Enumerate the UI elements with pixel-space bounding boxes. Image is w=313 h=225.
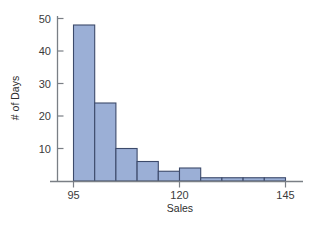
plot-area: 1020304050 95120145 Sales # of Days [0, 0, 313, 225]
histogram-bar [180, 168, 201, 181]
y-axis-title: # of Days [9, 76, 21, 120]
histogram-bar [95, 103, 116, 181]
histogram-bar [137, 162, 158, 182]
x-axis-ticks: 95120145 [67, 182, 294, 202]
y-axis-ticks: 1020304050 [39, 13, 64, 155]
y-axis-tick-label: 50 [39, 13, 51, 25]
histogram-figure: 1020304050 95120145 Sales # of Days [0, 0, 313, 225]
x-axis-tick-label: 95 [67, 189, 79, 201]
histogram-bar [243, 178, 264, 181]
y-axis-tick-label: 30 [39, 78, 51, 90]
histogram-bar [222, 178, 243, 181]
histogram-bar [116, 149, 137, 182]
x-axis-title: Sales [167, 202, 193, 214]
y-axis-tick-label: 10 [39, 143, 51, 155]
histogram-svg: 1020304050 95120145 Sales # of Days [0, 0, 313, 225]
y-axis-tick-label: 20 [39, 110, 51, 122]
histogram-bar [74, 25, 95, 181]
histogram-bar [264, 178, 285, 181]
y-axis-tick-label: 40 [39, 45, 51, 57]
histogram-bar [158, 171, 179, 181]
histogram-bar [201, 178, 222, 181]
x-axis-tick-label: 120 [170, 189, 188, 201]
x-axis-tick-label: 145 [276, 189, 294, 201]
bars-group [74, 25, 286, 181]
